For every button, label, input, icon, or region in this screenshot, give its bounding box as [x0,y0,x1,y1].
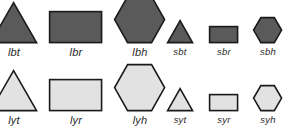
shape-glyph-holder-sbh [252,15,283,44]
shape-label-sbr: sbr [217,47,231,57]
shape-item-sbh: sbh [238,15,298,57]
hexagon-glyph [252,16,283,44]
shape-glyph-holder-syr [208,92,239,112]
shape-item-lyt: lyt [0,68,44,126]
shape-label-lbh: lbh [132,47,147,58]
rectangle-glyph [208,93,239,112]
shape-label-lyt: lyt [8,115,20,126]
shape-glyph-holder-lyr [48,77,103,112]
shape-label-syr: syr [217,115,230,125]
triangle-glyph [166,87,194,112]
shape-label-lyr: lyr [70,115,82,126]
shape-item-lbt: lbt [0,0,44,58]
shape-label-syt: syt [174,115,187,125]
shape-glyph-holder-lbt [0,0,39,44]
triangle-glyph [0,1,39,44]
shape-glyph-holder-sbr [208,24,239,44]
rectangle-glyph [48,10,103,44]
shape-label-lbt: lbt [8,47,20,58]
shape-item-lyr: lyr [46,77,106,126]
shape-label-lyh: lyh [133,115,148,126]
rectangle-glyph [48,78,103,112]
shape-glyph-holder-sbt [166,18,194,44]
shape-glyph-holder-syh [252,83,283,112]
shape-label-lbr: lbr [70,47,83,58]
triangle-glyph [0,69,39,112]
shape-legend-figure: lbtlbrlbhsbtsbrsbhlytlyrlyhsytsyrsyh [0,0,304,134]
shape-item-syh: syh [238,83,298,125]
shape-item-lbr: lbr [46,9,106,58]
shape-label-sbt: sbt [173,47,186,57]
shape-glyph-holder-syt [166,86,194,112]
shape-glyph-holder-lyt [0,68,39,112]
shape-label-sbh: sbh [260,47,276,57]
shape-glyph-holder-lbr [48,9,103,44]
hexagon-glyph [252,84,283,112]
triangle-glyph [166,19,194,44]
rectangle-glyph [208,25,239,44]
shape-label-syh: syh [260,115,275,125]
